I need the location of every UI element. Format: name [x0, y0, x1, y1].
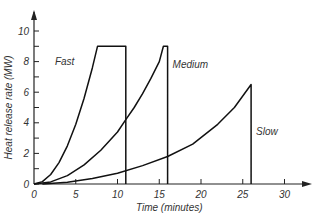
- x-tick-label: 15: [154, 189, 166, 200]
- x-tick-label: 10: [112, 189, 124, 200]
- x-tick-label: 5: [73, 189, 79, 200]
- series-line-slow: [42, 85, 251, 185]
- x-tick-label: 0: [31, 189, 37, 200]
- x-tick-label: 20: [194, 189, 207, 200]
- series-label-medium: Medium: [173, 59, 209, 70]
- series-label-slow: Slow: [256, 126, 278, 137]
- y-tick-label: 10: [18, 26, 30, 37]
- y-tick-label: 0: [23, 179, 29, 190]
- heat-release-chart: 0246810051015202530Time (minutes)Heat re…: [0, 0, 318, 217]
- x-tick-label: 30: [279, 189, 291, 200]
- y-axis-label: Heat release rate (MW): [3, 56, 14, 160]
- y-tick-label: 6: [23, 87, 29, 98]
- y-tick-label: 4: [23, 117, 29, 128]
- series-group: [34, 46, 251, 184]
- series-line-fast: [34, 46, 126, 184]
- y-tick-label: 8: [23, 56, 29, 67]
- y-axis-arrow-icon: [31, 10, 37, 20]
- y-tick-label: 2: [22, 148, 29, 159]
- series-label-fast: Fast: [55, 56, 76, 67]
- x-axis-label: Time (minutes): [136, 202, 203, 213]
- x-tick-label: 25: [236, 189, 249, 200]
- labels-group: FastMediumSlow: [55, 56, 279, 137]
- x-axis-arrow-icon: [302, 181, 312, 187]
